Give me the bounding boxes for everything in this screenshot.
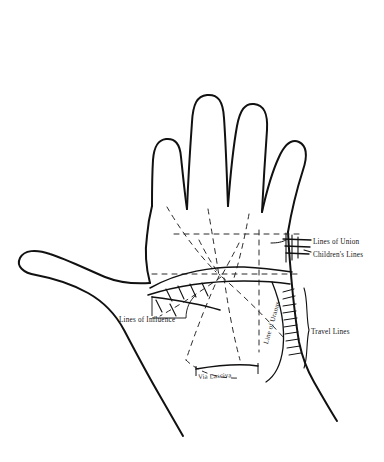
guide-descending-left: [186, 276, 219, 360]
label-childrens-lines: Children's Lines: [313, 252, 363, 259]
percussion-edge: [288, 232, 337, 421]
guide-minor-b: [222, 243, 239, 275]
index-finger: [152, 139, 187, 209]
influence-leader-2: [186, 295, 196, 318]
lines-of-union-marks: [271, 239, 311, 254]
childrens-leader: [304, 250, 311, 252]
ring-finger: [228, 104, 267, 212]
guide-ring-radiant: [234, 214, 249, 278]
travel-hatch-10: [289, 353, 301, 355]
little-finger: [262, 141, 306, 232]
guide-index-radiant: [167, 207, 216, 272]
hand-outline: [19, 95, 337, 436]
middle-finger: [187, 95, 228, 209]
head-line: [148, 281, 290, 295]
palmistry-diagram: Lines of Union Children's Lines Travel L…: [0, 0, 384, 462]
influence-tick-2: [178, 286, 184, 299]
influence-tick-5: [156, 300, 162, 312]
thumb-and-wrist-left-edge: [19, 251, 183, 436]
travel-hatch-8: [286, 339, 299, 341]
label-travel-lines: Travel Lines: [311, 329, 350, 336]
travel-hatch-6: [284, 325, 297, 327]
hand-diagram-canvas: [0, 0, 384, 462]
travel-hatch-9: [287, 346, 300, 348]
label-lines-of-influence: Lines of Influence: [119, 317, 175, 324]
union-connector: [271, 240, 286, 243]
life-line-upper: [152, 297, 220, 310]
via-lasciva-line: [196, 365, 258, 369]
lines-of-influence-ticks: [156, 283, 208, 316]
influence-tick-3: [190, 284, 196, 297]
label-lines-of-union: Lines of Union: [313, 239, 359, 246]
thenar-upper-edge: [146, 206, 152, 283]
travel-lines-hatches: [283, 289, 301, 355]
union-mark-1: [283, 239, 311, 240]
travel-hatch-7: [285, 332, 298, 334]
major-palm-creases: [148, 267, 292, 310]
dashed-guide-lines: [152, 207, 302, 378]
travel-lines-brace: [304, 288, 309, 368]
